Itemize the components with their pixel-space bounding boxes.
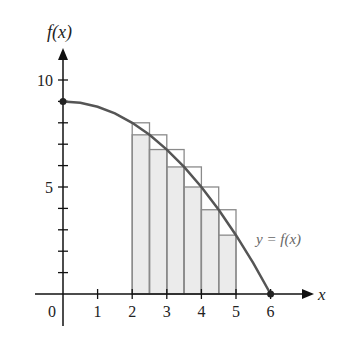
curve-label: y = f(x) (254, 231, 301, 248)
x-tick-label: 1 (94, 303, 102, 320)
lower-rectangle (132, 135, 149, 294)
endpoint-dot (60, 98, 67, 105)
x-tick-label: 0 (48, 303, 56, 320)
lower-rectangle (150, 150, 167, 294)
lower-rectangle (167, 167, 184, 294)
lower-rectangle (219, 235, 236, 294)
endpoint-dot (267, 291, 274, 298)
x-axis-arrow-icon (302, 289, 314, 299)
x-tick-label: 2 (128, 303, 136, 320)
y-tick-label: 5 (45, 179, 53, 196)
x-tick-label: 4 (197, 303, 205, 320)
x-axis-label: x (317, 285, 326, 304)
y-axis-arrow-icon (58, 48, 68, 60)
y-tick-label: 10 (37, 72, 53, 89)
x-tick-label: 6 (267, 303, 275, 320)
lower-rectangle (184, 187, 201, 294)
x-tick-label: 5 (232, 303, 240, 320)
lower-rectangle (201, 210, 218, 294)
riemann-sum-chart: 0123456 510 f(x) x y = f(x) (0, 0, 340, 344)
x-tick-label: 3 (163, 303, 171, 320)
y-axis-label: f(x) (47, 22, 72, 43)
